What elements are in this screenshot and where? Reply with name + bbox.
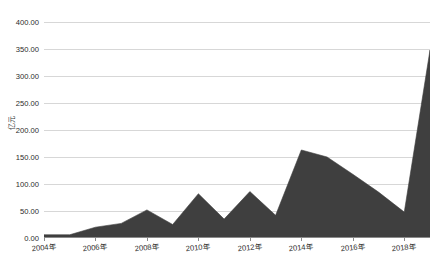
plot-area [44, 22, 430, 238]
y-axis-tick-label: 300.00 [16, 72, 39, 81]
y-axis-tick-label: 250.00 [16, 99, 39, 108]
x-axis-tick-label: 2016年 [340, 240, 366, 254]
y-axis-tick-label: 350.00 [16, 45, 39, 54]
x-axis-tick-label: 2010年 [185, 240, 211, 254]
x-axis-tick-labels: 2004年2006年2008年2010年2012年2014年2016年2018年 [44, 241, 430, 261]
chart-title [0, 0, 437, 9]
y-axis-tick-label: 100.00 [16, 180, 39, 189]
area-chart: 亿元 0.0050.00100.00150.00200.00250.00300.… [0, 0, 437, 274]
area-series [44, 22, 430, 238]
y-axis-tick-label: 400.00 [16, 18, 39, 27]
x-axis-tick-label: 2012年 [237, 240, 263, 254]
x-axis-tick-label: 2006年 [82, 240, 108, 254]
y-axis-tick-labels: 0.0050.00100.00150.00200.00250.00300.003… [0, 0, 42, 274]
y-axis-tick-label: 150.00 [16, 153, 39, 162]
x-axis-tick-label: 2008年 [134, 240, 160, 254]
x-axis-tick-label: 2014年 [288, 240, 314, 254]
x-axis-line [44, 237, 430, 238]
y-axis-tick-label: 200.00 [16, 126, 39, 135]
x-axis-tick-label: 2004年 [31, 240, 57, 254]
x-axis-tick-label: 2018年 [391, 240, 417, 254]
y-axis-tick-label: 50.00 [20, 207, 39, 216]
